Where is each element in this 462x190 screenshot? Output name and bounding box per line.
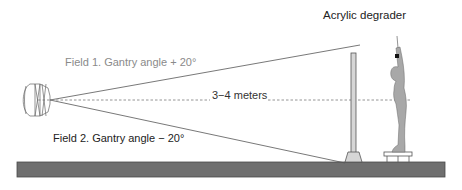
distance-label: 3−4 meters [212, 89, 267, 102]
acrylic-degrader-stand [345, 53, 362, 162]
field-2-label: Field 2. Gantry angle − 20° [53, 132, 184, 145]
gantry-head-icon [23, 84, 50, 116]
treatment-setup-diagram: Acrylic degrader Field 1. Gantry angle +… [0, 0, 462, 190]
patient-platform [384, 152, 412, 162]
field-1-beam-edge [50, 45, 360, 100]
patient-figure [391, 36, 407, 152]
floor [17, 162, 445, 177]
field-1-label: Field 1. Gantry angle + 20° [65, 56, 196, 69]
acrylic-degrader-title: Acrylic degrader [323, 9, 406, 22]
